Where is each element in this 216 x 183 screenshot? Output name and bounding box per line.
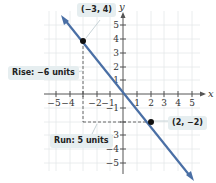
y-axis-label: y — [118, 1, 125, 12]
svg-text:−4: −4 — [61, 98, 75, 108]
run-pointer — [92, 124, 97, 134]
coordinate-plane: x y −5 −4 −2 −1 1 2 3 4 5 5 4 3 2 1 −1 −… — [0, 0, 216, 183]
run-callout: Run: 5 units — [50, 134, 113, 148]
point-2-neg2 — [148, 119, 154, 125]
point2-callout: (2, −2) — [168, 116, 207, 130]
svg-text:2: 2 — [148, 98, 154, 108]
x-axis-label: x — [208, 88, 214, 99]
x-tick-labels: −5 −4 −2 −1 1 2 3 4 5 — [47, 98, 195, 108]
svg-text:3: 3 — [113, 48, 119, 58]
rise-callout: Rise: −6 units — [8, 66, 79, 80]
svg-text:−5: −5 — [47, 98, 61, 108]
svg-text:2: 2 — [113, 62, 119, 72]
y-axis-arrow-icon — [121, 12, 126, 18]
svg-text:4: 4 — [175, 98, 181, 108]
svg-text:−1: −1 — [106, 103, 119, 113]
svg-text:4: 4 — [113, 34, 119, 44]
point-neg3-4 — [80, 38, 86, 44]
point1-callout: (−3, 4) — [77, 3, 116, 17]
svg-text:5: 5 — [113, 20, 119, 30]
svg-text:5: 5 — [189, 98, 195, 108]
axes — [44, 12, 206, 174]
svg-text:−2: −2 — [88, 98, 101, 108]
x-axis-arrow-icon — [200, 92, 206, 97]
point1-pointer — [86, 20, 100, 38]
svg-text:−5: −5 — [106, 158, 120, 168]
svg-text:3: 3 — [161, 98, 167, 108]
